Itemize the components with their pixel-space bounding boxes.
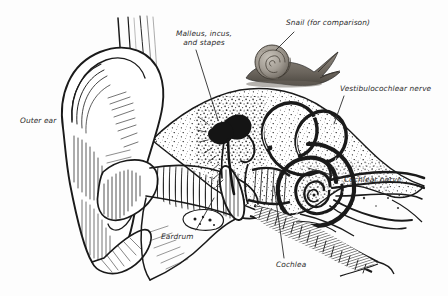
- ear-anatomy-figure: Outer ear Malleus, incus, and stapes Sna…: [0, 0, 448, 296]
- label-ossicles-line1: Malleus, incus,: [176, 29, 232, 38]
- label-eardrum: Eardrum: [161, 232, 194, 241]
- label-cochlea: Cochlea: [276, 260, 306, 269]
- label-cochlear-nerve: Cochlear nerve: [344, 175, 402, 184]
- mastoid-cells: [183, 210, 223, 231]
- label-snail: Snail (for comparison): [286, 18, 370, 27]
- label-vestibulocochlear-nerve: Vestibulocochlear nerve: [340, 84, 431, 93]
- label-ossicles-line2: and stapes: [183, 38, 225, 47]
- label-outer-ear: Outer ear: [20, 116, 56, 125]
- label-ossicles: Malleus, incus, and stapes: [161, 29, 247, 48]
